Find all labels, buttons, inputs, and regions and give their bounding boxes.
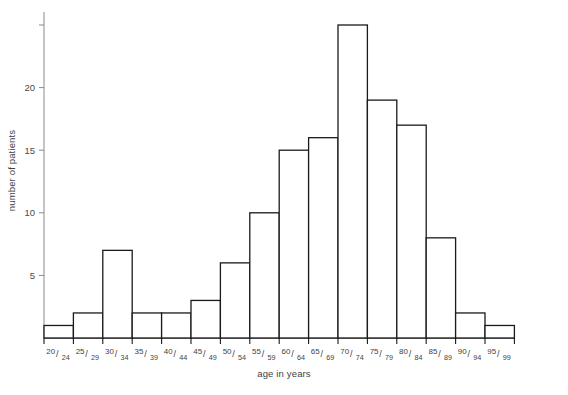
svg-text:79: 79 — [385, 353, 393, 362]
x-tick-label: 20/24 — [46, 347, 69, 362]
svg-text:39: 39 — [150, 353, 158, 362]
x-axis-label: age in years — [0, 368, 568, 379]
svg-text:/: / — [497, 349, 500, 359]
svg-text:55: 55 — [252, 347, 261, 356]
svg-text:80: 80 — [399, 347, 408, 356]
svg-text:54: 54 — [238, 353, 246, 362]
x-tick-label: 30/34 — [105, 347, 128, 362]
x-tick-label: 75/79 — [370, 347, 393, 362]
svg-text:74: 74 — [356, 353, 364, 362]
svg-text:/: / — [379, 349, 382, 359]
svg-text:/: / — [291, 349, 294, 359]
histogram-bar — [73, 313, 102, 338]
svg-text:85: 85 — [428, 347, 437, 356]
svg-text:70: 70 — [340, 347, 349, 356]
svg-text:89: 89 — [444, 353, 452, 362]
svg-text:69: 69 — [326, 353, 334, 362]
histogram-bar — [367, 100, 396, 338]
svg-text:29: 29 — [91, 353, 99, 362]
svg-text:/: / — [350, 349, 353, 359]
x-tick-label: 45/49 — [193, 347, 216, 362]
y-tick-label: 5 — [30, 270, 35, 281]
histogram-bar — [250, 213, 279, 338]
svg-text:94: 94 — [473, 353, 481, 362]
svg-text:50: 50 — [223, 347, 232, 356]
histogram-bar — [309, 138, 338, 338]
x-tick-label: 40/44 — [164, 347, 187, 362]
svg-text:45: 45 — [193, 347, 202, 356]
x-tick-label: 95/99 — [487, 347, 510, 362]
svg-text:65: 65 — [311, 347, 320, 356]
histogram-bar — [338, 25, 367, 338]
svg-text:75: 75 — [370, 347, 379, 356]
histogram-bar — [456, 313, 485, 338]
histogram-bar — [220, 263, 249, 338]
bars-layer — [44, 25, 514, 338]
svg-text:/: / — [203, 349, 206, 359]
histogram-bar — [132, 313, 161, 338]
svg-text:84: 84 — [415, 353, 423, 362]
plot-area: 5101520 20/2425/2930/3435/3940/4445/4950… — [0, 0, 568, 395]
histogram-bar — [162, 313, 191, 338]
histogram-bar — [426, 238, 455, 338]
y-tick-label: 20 — [24, 82, 35, 93]
svg-text:64: 64 — [297, 353, 305, 362]
svg-text:34: 34 — [121, 353, 129, 362]
svg-text:30: 30 — [105, 347, 114, 356]
x-tick-label: 70/74 — [340, 347, 363, 362]
svg-text:99: 99 — [503, 353, 511, 362]
histogram-bar — [397, 125, 426, 338]
x-tick-label: 80/84 — [399, 347, 422, 362]
svg-text:/: / — [144, 349, 147, 359]
x-tick-label: 85/89 — [428, 347, 451, 362]
svg-text:/: / — [262, 349, 265, 359]
svg-text:44: 44 — [179, 353, 187, 362]
histogram-bar — [279, 150, 308, 338]
x-tick-label: 90/94 — [458, 347, 481, 362]
x-tick-label: 50/54 — [223, 347, 246, 362]
svg-text:35: 35 — [134, 347, 143, 356]
svg-text:/: / — [232, 349, 235, 359]
histogram-chart: number of patients 5101520 20/2425/2930/… — [0, 0, 568, 395]
svg-text:/: / — [56, 349, 59, 359]
x-tick-label: 55/59 — [252, 347, 275, 362]
histogram-bar — [485, 325, 514, 338]
y-tick-labels: 5101520 — [24, 25, 44, 281]
svg-text:24: 24 — [62, 353, 70, 362]
x-tick-label: 35/39 — [134, 347, 157, 362]
svg-text:49: 49 — [209, 353, 217, 362]
svg-text:40: 40 — [164, 347, 173, 356]
svg-text:95: 95 — [487, 347, 496, 356]
x-tick-label: 65/69 — [311, 347, 334, 362]
x-tick-label: 60/64 — [281, 347, 304, 362]
histogram-bar — [191, 300, 220, 338]
svg-text:60: 60 — [281, 347, 290, 356]
svg-text:/: / — [321, 349, 324, 359]
y-tick-label: 15 — [24, 145, 35, 156]
svg-text:/: / — [85, 349, 88, 359]
svg-text:/: / — [438, 349, 441, 359]
histogram-bar — [103, 250, 132, 338]
svg-text:20: 20 — [46, 347, 55, 356]
svg-text:/: / — [468, 349, 471, 359]
x-tick-labels: 20/2425/2930/3435/3940/4445/4950/5455/59… — [44, 338, 514, 362]
svg-text:/: / — [409, 349, 412, 359]
x-tick-label: 25/29 — [76, 347, 99, 362]
svg-text:90: 90 — [458, 347, 467, 356]
svg-text:59: 59 — [268, 353, 276, 362]
histogram-bar — [44, 325, 73, 338]
svg-text:/: / — [115, 349, 118, 359]
y-tick-label: 10 — [24, 207, 35, 218]
svg-text:25: 25 — [76, 347, 85, 356]
svg-text:/: / — [174, 349, 177, 359]
